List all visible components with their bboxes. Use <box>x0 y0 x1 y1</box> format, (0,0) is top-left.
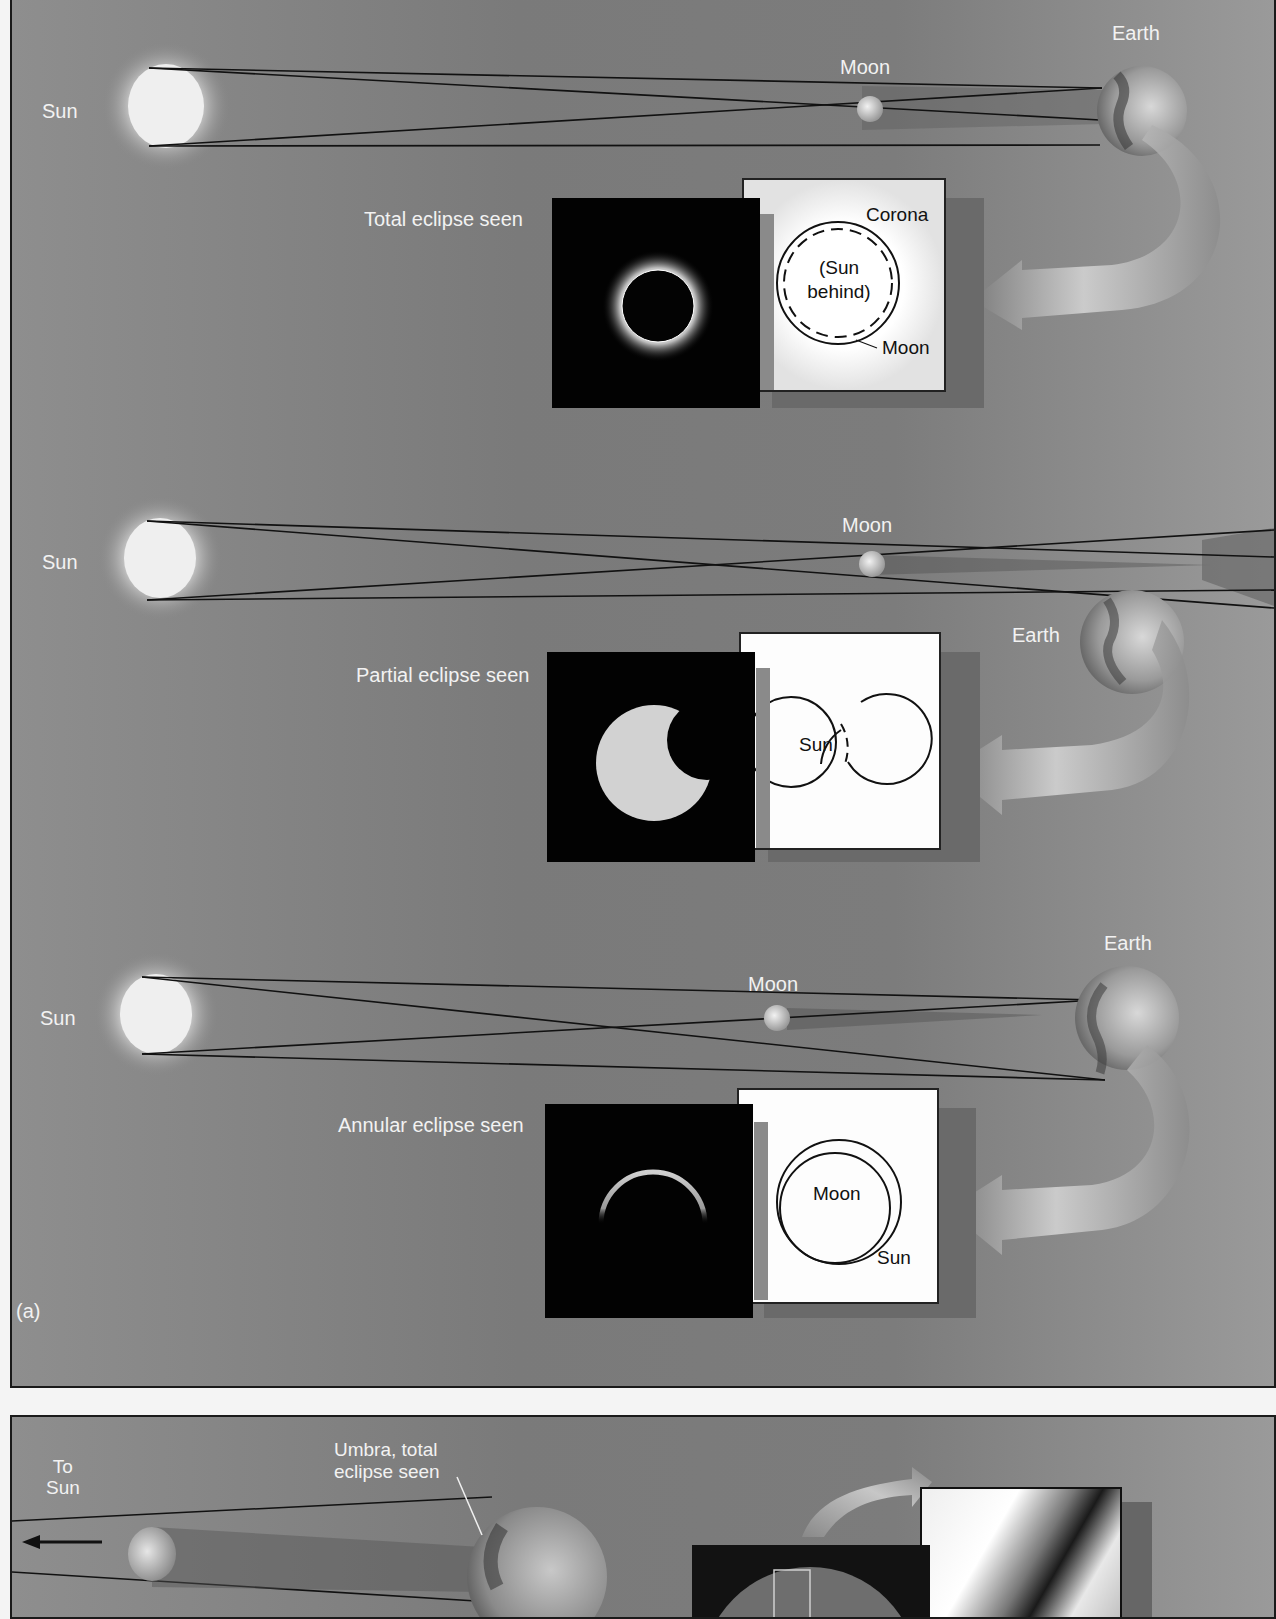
orbit-arrow-total <box>972 125 1220 330</box>
sun-behind-label-1: (Sun <box>804 257 874 279</box>
earth-label-total: Earth <box>1112 23 1160 43</box>
moon-diagram-label-annular: Moon <box>813 1183 861 1205</box>
moon-icon-annular <box>764 1005 790 1031</box>
umbra-label-2: eclipse seen <box>334 1461 440 1483</box>
moon-icon-total <box>857 96 883 122</box>
sun-diagram-label-annular: Sun <box>877 1247 911 1269</box>
satellite-closeup-photo <box>920 1487 1122 1619</box>
moon-icon-b <box>128 1527 176 1581</box>
corona-label: Corona <box>866 204 928 226</box>
caption-total: Total eclipse seen <box>364 209 523 229</box>
partial-eclipse-diagram <box>741 634 939 848</box>
panel-a: Sun Moon Earth Total eclipse seen Corona… <box>10 0 1276 1388</box>
umbra-shadow-total <box>862 86 1102 130</box>
sun-label-total: Sun <box>42 101 78 121</box>
caption-partial: Partial eclipse seen <box>356 665 529 685</box>
sight-lines-annular <box>142 977 1105 1080</box>
panel-a-label: (a) <box>16 1301 40 1321</box>
sun-label-annular: Sun <box>40 1008 76 1028</box>
panel-b: To Sun Umbra, total eclipse seen <box>10 1415 1276 1619</box>
sun-disk-total <box>128 64 204 148</box>
earth-label-partial: Earth <box>1012 625 1060 645</box>
umbra-label-1: Umbra, total <box>334 1439 440 1461</box>
annular-eclipse-photo <box>545 1104 753 1318</box>
orbit-arrow-partial <box>947 620 1189 815</box>
caption-annular: Annular eclipse seen <box>338 1115 524 1135</box>
umbra-pointer <box>457 1477 482 1535</box>
moon-diagram-label-total: Moon <box>882 337 930 359</box>
umbra-cone <box>152 1527 482 1592</box>
sun-label-partial: Sun <box>42 552 78 572</box>
moon-icon-partial <box>859 551 885 577</box>
to-sun-label-1: To <box>46 1457 80 1478</box>
earth-globe-photo <box>692 1545 930 1619</box>
zoom-arrow <box>802 1467 932 1537</box>
sun-behind-label-2: behind) <box>796 281 882 303</box>
moon-label-total: Moon <box>840 57 890 77</box>
to-sun-label-2: Sun <box>46 1478 80 1499</box>
umbra-shadow-partial <box>870 555 1212 575</box>
sun-diagram-label-partial: Sun <box>799 734 833 756</box>
moon-label-partial: Moon <box>842 515 892 535</box>
earth-label-annular: Earth <box>1104 933 1152 953</box>
moon-label-annular: Moon <box>748 974 798 994</box>
partial-eclipse-photo <box>547 652 755 862</box>
total-eclipse-photo <box>552 198 760 408</box>
antumbra-shadow-annular <box>787 1008 1042 1030</box>
